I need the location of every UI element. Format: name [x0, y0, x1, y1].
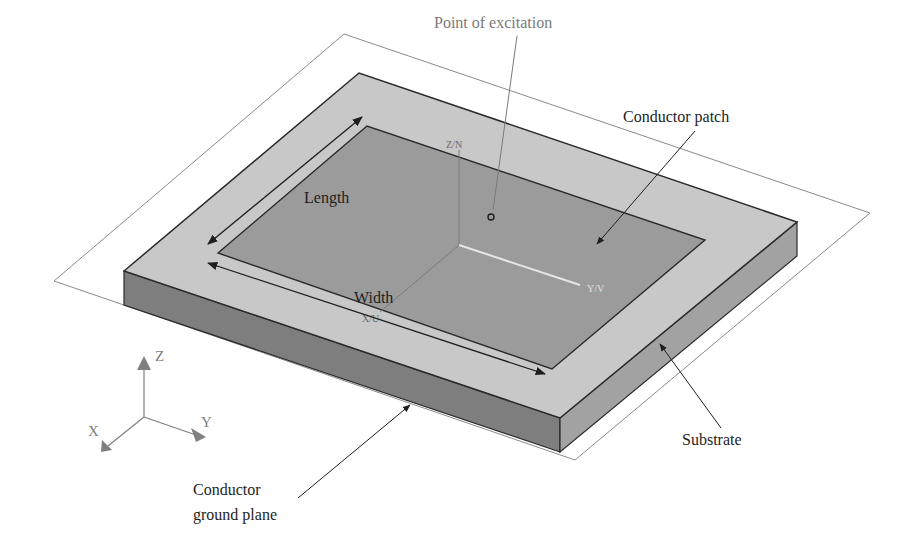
ground-plane-label-line1: Conductor [193, 481, 261, 498]
substrate-label: Substrate [682, 431, 742, 448]
ground-plane-label-line2: ground plane [193, 506, 277, 524]
triad-z-label: Z [155, 348, 164, 364]
model-y-label: Y/V [587, 283, 605, 294]
axis-triad: Z Y X [88, 348, 212, 452]
triad-x-axis [108, 417, 144, 446]
patch-antenna-diagram: Z/N Y/V X/U Point of excitation Conducto… [0, 0, 912, 547]
width-label: Width [354, 289, 393, 306]
conductor-patch-label: Conductor patch [623, 108, 729, 126]
triad-y-axis [144, 417, 196, 435]
triad-y-arrowhead [191, 428, 206, 442]
triad-x-label: X [88, 423, 99, 439]
length-label: Length [304, 189, 349, 207]
point-of-excitation-label: Point of excitation [434, 14, 552, 31]
model-z-label: Z/N [446, 139, 462, 150]
triad-z-arrowhead [137, 356, 151, 370]
triad-y-label: Y [201, 414, 212, 430]
ground-plane-leader [298, 405, 410, 498]
triad-x-arrowhead [101, 440, 112, 452]
